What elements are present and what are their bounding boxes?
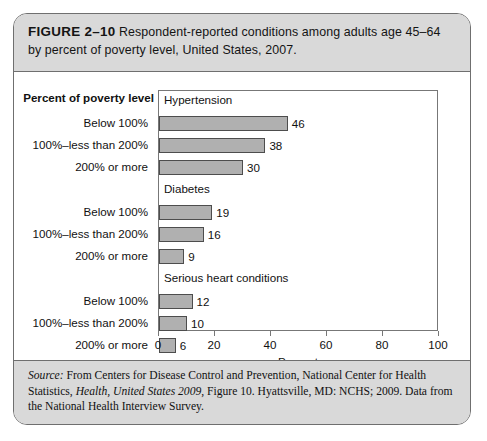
x-axis-tick: [270, 331, 271, 336]
category-label: 100%–less than 200%: [13, 226, 154, 241]
category-label: Below 100%: [13, 204, 154, 219]
bar: [159, 116, 288, 131]
category-label: Below 100%: [13, 115, 154, 130]
x-axis-tick: [214, 331, 215, 336]
group-header: Hypertension: [164, 93, 232, 106]
source-publication-title: Health, United States 2009: [76, 385, 202, 398]
bar-value-label: 6: [180, 338, 186, 353]
bar-value-label: 16: [208, 227, 221, 242]
category-label: Below 100%: [13, 293, 154, 308]
category-labels: Below 100%100%–less than 200%200% or mor…: [14, 90, 154, 331]
figure-caption-band: FIGURE 2–10 Respondent-reported conditio…: [14, 14, 470, 72]
bar: [159, 138, 265, 153]
bar: [159, 294, 193, 309]
group-header: Serious heart conditions: [164, 271, 288, 284]
bar-value-label: 19: [216, 205, 229, 220]
chart-area: Percent of poverty level Below 100%100%–…: [14, 72, 470, 360]
x-axis-tick: [326, 331, 327, 336]
group-header: Diabetes: [164, 182, 210, 195]
category-label: 200% or more: [13, 248, 154, 263]
category-label: 200% or more: [13, 159, 154, 174]
x-axis-tick-label: 0: [155, 338, 161, 351]
x-axis-tick: [382, 331, 383, 336]
figure-container: FIGURE 2–10 Respondent-reported conditio…: [13, 13, 471, 425]
bar: [159, 338, 176, 353]
figure-source-band: Source: From Centers for Disease Control…: [14, 360, 470, 424]
figure-source: Source: From Centers for Disease Control…: [28, 368, 456, 415]
figure-number: FIGURE 2–10: [28, 24, 115, 39]
bar-value-label: 46: [292, 116, 305, 131]
x-axis-tick-label: 20: [208, 338, 221, 351]
x-axis-tick-label: 100: [428, 338, 447, 351]
category-label: 100%–less than 200%: [13, 137, 154, 152]
source-prefix: Source:: [28, 369, 64, 382]
x-axis-tick: [438, 331, 439, 336]
bar: [159, 316, 187, 331]
bar: [159, 205, 212, 220]
x-axis-tick: [158, 331, 159, 336]
bar-value-label: 12: [197, 294, 210, 309]
bar: [159, 249, 184, 264]
bar: [159, 160, 243, 175]
category-label: 200% or more: [13, 337, 154, 352]
figure-caption: FIGURE 2–10 Respondent-reported conditio…: [28, 23, 454, 59]
bar: [159, 227, 204, 242]
x-axis-tick-label: 80: [376, 338, 389, 351]
bar-value-label: 9: [188, 249, 194, 264]
category-label: 100%–less than 200%: [13, 315, 154, 330]
bar-value-label: 38: [269, 138, 282, 153]
plot-frame: Hypertension463830Diabetes19169Serious h…: [158, 90, 438, 331]
bar-value-label: 10: [191, 316, 204, 331]
x-axis-tick-label: 40: [264, 338, 277, 351]
bar-value-label: 30: [247, 160, 260, 175]
x-axis-tick-label: 60: [320, 338, 333, 351]
